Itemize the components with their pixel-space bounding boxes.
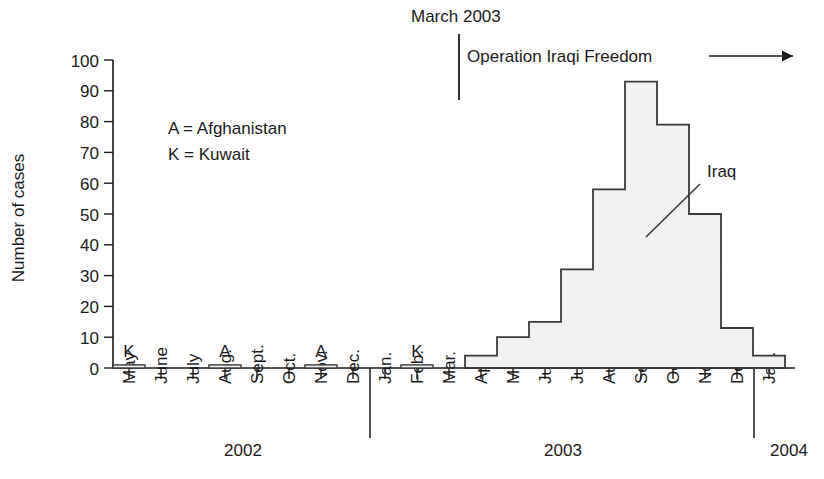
chart-container: Number of cases 100 90 80 70 60 50 40 30… — [0, 0, 824, 479]
x-tick-label: June — [152, 347, 171, 384]
x-tick-label: July — [184, 353, 203, 384]
y-tick-label: 60 — [80, 175, 99, 194]
bar-feb-2003 — [401, 365, 433, 368]
iraq-case-step-histogram — [465, 82, 785, 368]
bar-aug-2002 — [209, 365, 241, 368]
case-count-histogram: Number of cases 100 90 80 70 60 50 40 30… — [0, 0, 824, 479]
x-tick-label: Dec. — [344, 349, 363, 384]
x-tick-label: Jan. — [376, 352, 395, 384]
march-2003-label: March 2003 — [411, 7, 501, 26]
y-tick-label: 80 — [80, 113, 99, 132]
bar-letter-afghanistan-nov-2002: A — [315, 342, 327, 361]
y-tick-label: 50 — [80, 206, 99, 225]
year-label-2004: 2004 — [770, 441, 808, 460]
bar-letter-kuwait-may-2002: K — [123, 342, 135, 361]
legend: A = Afghanistan K = Kuwait — [168, 119, 287, 164]
x-tick-label: Sept. — [248, 344, 267, 384]
iraq-series-label: Iraq — [707, 162, 736, 181]
year-label-2002: 2002 — [224, 441, 262, 460]
y-tick-label: 70 — [80, 144, 99, 163]
arrow-head-icon — [782, 51, 793, 62]
x-tick-label: Oct. — [280, 353, 299, 384]
legend-item-afghanistan: A = Afghanistan — [168, 119, 287, 138]
bar-may-2002 — [113, 365, 145, 368]
bar-letter-afghanistan-aug-2002: A — [219, 342, 231, 361]
bar-nov-2002 — [305, 365, 337, 368]
y-tick-label: 0 — [90, 360, 99, 379]
operation-iraqi-freedom-annotation: Operation Iraqi Freedom — [467, 47, 793, 66]
bar-letter-kuwait-feb-2003: K — [411, 342, 423, 361]
y-axis-title: Number of cases — [9, 154, 28, 283]
y-tick-label: 90 — [80, 82, 99, 101]
y-tick-label: 20 — [80, 298, 99, 317]
y-axis-ticks: 100 90 80 70 60 50 40 30 20 10 0 — [71, 52, 113, 379]
y-axis-title-group: Number of cases — [9, 154, 28, 283]
y-tick-label: 30 — [80, 267, 99, 286]
y-tick-label: 40 — [80, 236, 99, 255]
legend-item-kuwait: K = Kuwait — [168, 145, 250, 164]
x-tick-label: Mar. — [440, 351, 459, 384]
year-label-2003: 2003 — [544, 441, 582, 460]
y-tick-label: 100 — [71, 52, 99, 71]
y-tick-label: 10 — [80, 329, 99, 348]
operation-iraqi-freedom-label: Operation Iraqi Freedom — [467, 47, 652, 66]
